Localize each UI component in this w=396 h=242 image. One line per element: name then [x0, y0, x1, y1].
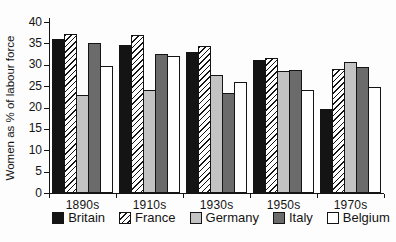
legend-item-belgium: Belgium: [327, 210, 390, 225]
bar-belgium-1950s: [301, 90, 314, 193]
legend-swatch-germany: [190, 212, 202, 224]
bar-belgium-1910s: [167, 56, 180, 193]
legend-label: Britain: [68, 210, 105, 225]
legend-swatch-france: [119, 212, 131, 224]
y-axis-tick: [44, 172, 49, 173]
y-axis-tick-label: 15: [12, 122, 42, 135]
y-axis-tick-label: 5: [12, 165, 42, 178]
bar-belgium-1890s: [100, 66, 113, 193]
bar-belgium-1930s: [234, 82, 247, 193]
legend-label: France: [135, 210, 175, 225]
y-axis-tick-label: 30: [12, 58, 42, 71]
y-axis-tick-label: 20: [12, 101, 42, 114]
y-axis-tick: [44, 129, 49, 130]
y-axis-tick: [44, 108, 49, 109]
y-axis-tick: [44, 22, 49, 23]
legend-label: Italy: [289, 210, 313, 225]
x-axis-line: [44, 193, 384, 194]
plot-area: 05101520253035401890s1910s1930s1950s1970…: [0, 0, 396, 242]
legend-item-italy: Italy: [273, 210, 313, 225]
legend-label: Germany: [206, 210, 259, 225]
legend-swatch-belgium: [327, 212, 339, 224]
y-axis-tick-label: 40: [12, 16, 42, 29]
y-axis-tick-label: 0: [12, 187, 42, 200]
legend-label: Belgium: [343, 210, 390, 225]
bar-belgium-1970s: [368, 87, 381, 193]
y-axis-tick: [44, 150, 49, 151]
bar-chart-figure: Women as % of labour force 0510152025303…: [0, 0, 396, 242]
legend-item-britain: Britain: [52, 210, 105, 225]
legend-swatch-italy: [273, 212, 285, 224]
legend-item-france: France: [119, 210, 175, 225]
legend-item-germany: Germany: [190, 210, 259, 225]
y-axis-line: [49, 18, 50, 193]
y-axis-tick-label: 25: [12, 80, 42, 93]
y-axis-tick-label: 35: [12, 37, 42, 50]
legend-swatch-britain: [52, 212, 64, 224]
y-axis-tick: [44, 65, 49, 66]
y-axis-tick-label: 10: [12, 144, 42, 157]
x-axis-tick: [384, 194, 385, 198]
legend: BritainFranceGermanyItalyBelgium: [48, 210, 394, 225]
y-axis-tick: [44, 86, 49, 87]
y-axis-tick: [44, 43, 49, 44]
